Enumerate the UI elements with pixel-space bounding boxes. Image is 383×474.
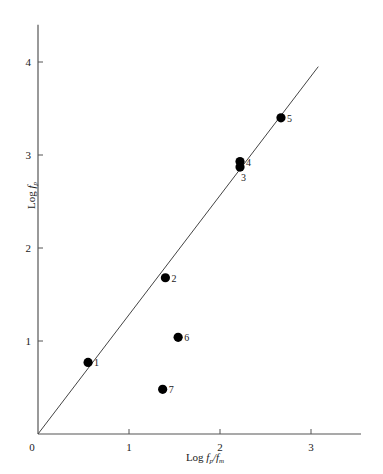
y-tick-label: 4 [26,57,32,68]
data-point-marker [276,113,285,122]
axes-group [38,25,361,434]
y-tick-label: 3 [26,150,32,161]
x-tick-label: 3 [308,442,314,453]
data-point-marker [158,385,167,394]
y-tick-label: 2 [26,243,32,254]
x-axis-title: Log fp/fm [186,452,224,463]
x-tick-label: 0 [29,442,35,453]
y-axis-title: Log fp [26,182,37,209]
reference-line [38,67,318,434]
chart-figure: 01231234 1234567 Log fp/fm Log fp [0,0,383,474]
data-point-label: 4 [246,158,251,168]
data-point-label: 1 [94,358,99,368]
data-point-label: 3 [241,173,246,183]
x-tick-label: 1 [126,442,132,453]
data-point-label: 7 [169,385,174,395]
data-point-label: 6 [184,333,189,343]
data-point-marker [83,358,92,367]
data-points-group [83,113,285,394]
data-point-marker [174,333,183,342]
data-point-marker [235,157,244,166]
scatter-plot-canvas [0,0,383,474]
data-point-label: 5 [287,114,292,124]
data-point-marker [161,273,170,282]
data-point-label: 2 [171,274,176,284]
reference-line-segment [38,67,318,434]
axis-ticks-group [38,62,311,434]
y-tick-label: 1 [26,336,32,347]
